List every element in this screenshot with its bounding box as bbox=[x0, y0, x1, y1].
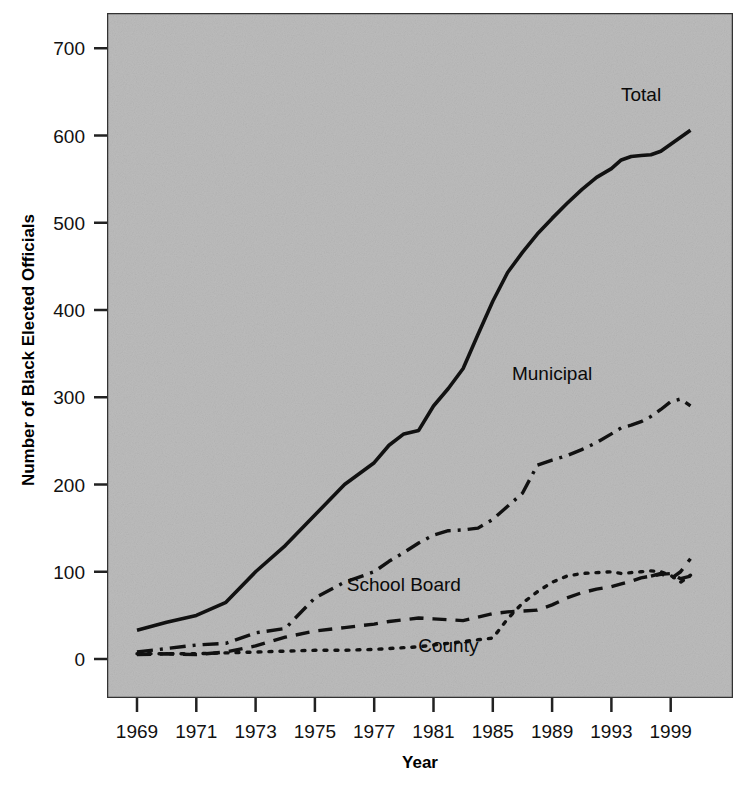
x-tick-label: 1975 bbox=[294, 721, 336, 742]
y-tick-label: 0 bbox=[74, 649, 85, 670]
y-tick-label: 400 bbox=[53, 300, 85, 321]
y-tick-label: 600 bbox=[53, 126, 85, 147]
total-series-label: Total bbox=[621, 84, 661, 105]
x-tick-label: 1999 bbox=[650, 721, 692, 742]
school-board-series-label: School Board bbox=[347, 574, 461, 595]
y-tick-label: 100 bbox=[53, 562, 85, 583]
county-series-label: County bbox=[418, 635, 479, 656]
line-chart: 0100200300400500600700 19691971197319751… bbox=[0, 0, 751, 785]
x-tick-label: 1985 bbox=[472, 721, 514, 742]
x-tick-label: 1993 bbox=[590, 721, 632, 742]
x-tick-label: 1977 bbox=[353, 721, 395, 742]
plot-area-background bbox=[107, 13, 733, 698]
x-axis-title: Year bbox=[402, 753, 438, 772]
y-tick-label: 300 bbox=[53, 387, 85, 408]
y-tick-label: 200 bbox=[53, 475, 85, 496]
x-tick-label: 1981 bbox=[412, 721, 454, 742]
chart-figure: 0100200300400500600700 19691971197319751… bbox=[0, 0, 751, 785]
x-tick-label: 1973 bbox=[234, 721, 276, 742]
municipal-series-label: Municipal bbox=[512, 363, 592, 384]
x-tick-label: 1971 bbox=[175, 721, 217, 742]
y-tick-label: 500 bbox=[53, 213, 85, 234]
y-axis-title: Number of Black Elected Officials bbox=[19, 214, 38, 486]
x-tick-label: 1969 bbox=[116, 721, 158, 742]
x-tick-label: 1989 bbox=[531, 721, 573, 742]
y-tick-label: 700 bbox=[53, 38, 85, 59]
